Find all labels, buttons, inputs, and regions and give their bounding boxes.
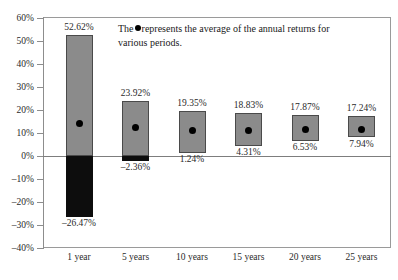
y-axis-tick [37, 64, 43, 65]
chart-annotation: Therepresents the average of the annual … [118, 22, 348, 49]
average-dot-marker [245, 127, 252, 134]
plot-frame [43, 17, 391, 248]
x-axis-label: 25 years [327, 252, 397, 263]
average-dot-marker [132, 124, 139, 131]
y-axis-tick [37, 18, 43, 19]
bar-high-value-label: 17.24% [332, 103, 392, 114]
y-axis-label: 40% [17, 59, 34, 69]
y-axis-label: –30% [12, 220, 34, 230]
y-axis-label: 60% [17, 13, 34, 23]
annotation-text-before: The [118, 23, 134, 34]
bar-positive-segment [66, 35, 93, 156]
annotation-text-after: represents the average of the annual ret… [118, 23, 330, 48]
bar-high-value-label: 17.87% [275, 102, 335, 113]
y-axis-label: 50% [17, 36, 34, 46]
bar-low-value-label: 7.94% [332, 139, 392, 150]
y-axis-tick [37, 110, 43, 111]
bar-high-value-label: 19.35% [162, 98, 222, 109]
bar-low-value-label: 4.31% [219, 147, 279, 158]
y-axis-label: 30% [17, 82, 34, 92]
bar-high-value-label: 52.62% [49, 22, 109, 33]
y-axis-tick [37, 225, 43, 226]
bar-negative-segment [66, 156, 93, 217]
filled-circle-icon [135, 25, 141, 31]
y-axis-tick [37, 202, 43, 203]
bar-high-value-label: 18.83% [219, 100, 279, 111]
y-axis-label: 0% [21, 151, 34, 161]
y-axis-tick [37, 87, 43, 88]
y-axis-tick [37, 133, 43, 134]
y-axis-label: –40% [12, 243, 34, 253]
y-axis-label: 20% [17, 105, 34, 115]
y-axis-label: –20% [12, 197, 34, 207]
y-axis-tick [37, 248, 43, 249]
bar-high-value-label: 23.92% [106, 88, 166, 99]
average-dot-marker [302, 126, 309, 133]
y-axis-label: 10% [17, 128, 34, 138]
y-axis-tick [37, 156, 43, 157]
bar-low-value-label: –26.47% [49, 218, 109, 229]
y-axis-line [43, 17, 44, 249]
y-axis-tick [37, 179, 43, 180]
bar-negative-segment [122, 156, 149, 161]
average-dot-marker [358, 126, 365, 133]
average-dot-marker [76, 120, 83, 127]
bar-low-value-label: 1.24% [162, 154, 222, 165]
average-dot-marker [189, 127, 196, 134]
bar-low-value-label: –2.36% [106, 162, 166, 173]
y-axis-tick [37, 41, 43, 42]
bar-low-value-label: 6.53% [275, 142, 335, 153]
range-bar-chart: 60%50%40%30%20%10%0%–10%–20%–30%–40% 1 y… [0, 0, 398, 280]
y-axis-label: –10% [12, 174, 34, 184]
